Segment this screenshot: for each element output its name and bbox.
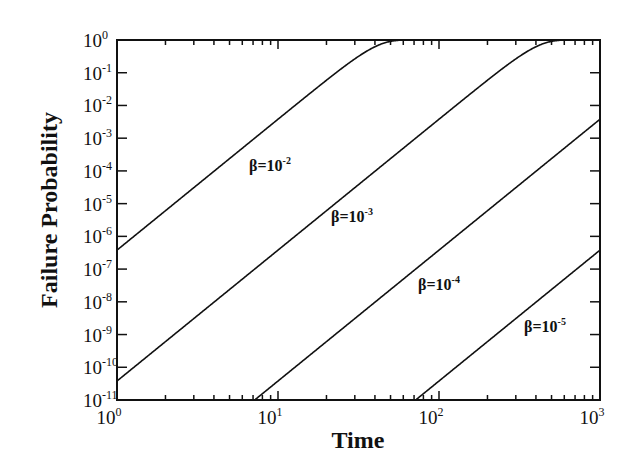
curve-label: β=10-4 [418, 274, 460, 294]
x-tick-label: 102 [419, 405, 444, 428]
y-tick-label: 10-3 [83, 126, 112, 149]
y-tick-label: 10-6 [83, 224, 112, 247]
failure-probability-chart: 100101102103 10010-110-210-310-410-510-6… [0, 0, 642, 468]
x-axis-title: Time [332, 427, 385, 453]
y-tick-label: 10-7 [83, 257, 112, 280]
curve-beta-neg4 [255, 119, 600, 399]
x-tick-label: 101 [258, 405, 283, 428]
y-tick-label: 10-5 [83, 192, 112, 215]
curve-label: β=10-5 [524, 316, 566, 336]
y-tick-label: 10-4 [83, 159, 112, 182]
y-tick-label: 10-2 [83, 93, 112, 116]
curve-labels: β=10-2β=10-3β=10-4β=10-5 [249, 155, 566, 336]
y-axis-title: Failure Probability [36, 112, 62, 308]
curve-label: β=10-2 [249, 155, 291, 175]
y-tick-label: 10-8 [83, 290, 112, 313]
y-tick-label: 100 [83, 28, 108, 51]
y-tick-label: 10-9 [83, 323, 112, 346]
y-tick-label: 10-10 [83, 355, 118, 378]
y-tick-label: 10-1 [83, 61, 112, 84]
y-tick-labels: 10010-110-210-310-410-510-610-710-810-91… [83, 28, 118, 411]
curve-label: β=10-3 [331, 206, 373, 226]
x-tick-label: 103 [580, 405, 605, 428]
curve-beta-neg5 [416, 250, 600, 399]
x-tick-labels: 100101102103 [97, 405, 605, 428]
